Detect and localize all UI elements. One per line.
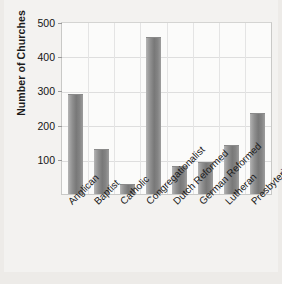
x-axis-labels: AnglicanBaptistCatholicCongregationalist… <box>0 0 282 284</box>
bar-chart: Number of Churches 100200300400500 Angli… <box>0 0 282 284</box>
